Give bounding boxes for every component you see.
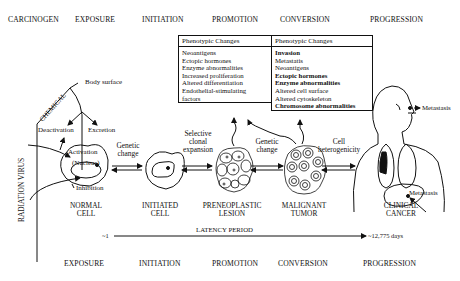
latency-start: ~1 xyxy=(102,232,109,240)
box-item: Ectopic hormones xyxy=(182,57,272,65)
box-title: Phenotypic Changes xyxy=(179,37,275,47)
footer-exposure: EXPOSURE xyxy=(64,259,104,268)
box-item: Altered cytoskeleton xyxy=(275,95,369,103)
box-item: Endothelial-stimulating xyxy=(182,87,272,95)
footer-promotion: PROMOTION xyxy=(212,259,258,268)
label-metastasis-head: Metastasis xyxy=(422,104,451,112)
latency-end: ~12,775 days xyxy=(368,232,403,240)
header-progression: PROGRESSION xyxy=(370,15,423,24)
initiated-cell-shape xyxy=(146,152,184,189)
stage-preneoplastic-lesion: PRENEOPLASTICLESION xyxy=(200,202,264,218)
box-item: Enzyme abnormalities xyxy=(182,64,272,72)
label-deactivation: Deactivation xyxy=(38,126,74,134)
footer-progression: PROGRESSION xyxy=(363,259,416,268)
label-nucleus: (Nucleus) xyxy=(72,159,100,167)
header-promotion: PROMOTION xyxy=(212,15,258,24)
header-conversion: CONVERSION xyxy=(280,15,330,24)
label-body-surface: Body surface xyxy=(85,78,122,86)
header-carcinogen: CARCINOGEN xyxy=(8,15,59,24)
box-item: Neoantigens xyxy=(182,49,272,57)
label-selective-clonal-expansion: Selective clonal expansion xyxy=(180,130,216,154)
promotion-phenotypic-changes-box: Phenotypic Changes Neoantigens Ectopic h… xyxy=(178,35,276,103)
box-item: Invasion xyxy=(275,49,369,57)
box-item: Altered differentiation xyxy=(182,79,272,87)
box-item: Ectopic hormones xyxy=(275,72,369,80)
stage-malignant-tumor: MALIGNANTTUMOR xyxy=(278,202,330,218)
label-genetic-change-1: Genetic change xyxy=(110,142,146,158)
label-cell-heterogenicity: Cell heterogenicity xyxy=(318,138,360,154)
label-excretion: Excretion xyxy=(88,126,115,134)
box-item: factors xyxy=(182,95,272,103)
latency-period-label: LATENCY PERIOD xyxy=(196,226,253,234)
label-inhibition: Inhibition xyxy=(76,184,104,192)
footer-conversion: CONVERSION xyxy=(278,259,328,268)
label-radiation-virus: RADIATION VIRUS xyxy=(18,158,26,222)
box-title: Phenotypic Changes xyxy=(272,37,372,47)
footer-initiation: INITIATION xyxy=(139,259,181,268)
header-initiation: INITIATION xyxy=(142,15,184,24)
header-exposure: EXPOSURE xyxy=(75,15,115,24)
box-item: Increased proliferation xyxy=(182,72,272,80)
label-genetic-change-2: Genetic change xyxy=(250,138,284,154)
preneoplastic-lesion-shape xyxy=(216,148,253,192)
box-item: Neoantigens xyxy=(275,64,369,72)
box-item: Enzyme abnormalities xyxy=(275,79,369,87)
box-item: Chromosome abnormalities xyxy=(275,102,369,110)
stage-clinical-cancer: CLINICALCANCER xyxy=(376,202,426,218)
label-activation: Activation xyxy=(68,148,98,156)
label-metastasis-liver: Metastasis xyxy=(409,189,438,197)
stage-initiated-cell: INITIATEDCELL xyxy=(136,202,184,218)
stage-normal-cell: NORMALCELL xyxy=(62,202,110,218)
conversion-phenotypic-changes-box: Phenotypic Changes Invasion Metastatis N… xyxy=(271,35,373,111)
box-item: Metastatis xyxy=(275,57,369,65)
box-item: Altered cell surface xyxy=(275,87,369,95)
